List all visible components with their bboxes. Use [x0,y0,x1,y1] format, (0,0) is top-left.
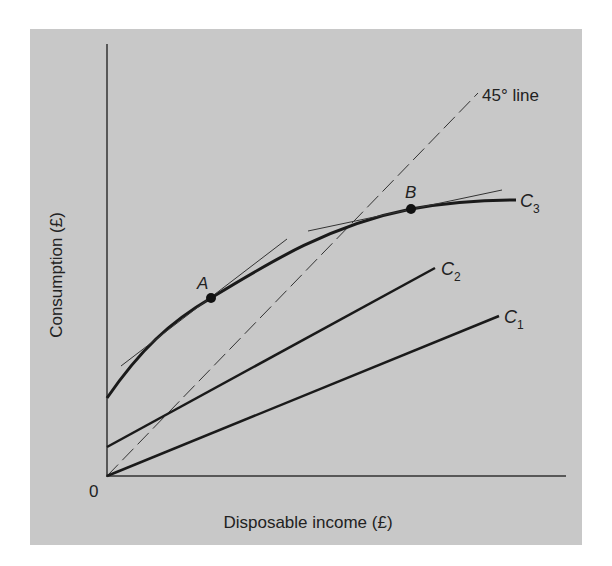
c1-label: C1 [504,307,524,332]
y-axis-label: Consumption (£) [47,212,66,338]
point-b-marker [406,204,416,214]
c2-line [107,268,435,447]
c1-label-base: C [504,307,518,327]
c3-label-base: C [520,191,534,211]
c3-label-sub: 3 [533,202,540,216]
c2-label-base: C [441,259,455,279]
origin-label: 0 [89,482,98,501]
x-axis-label: Disposable income (£) [223,513,392,532]
c2-label-sub: 2 [454,270,461,284]
tangent-at-a [121,239,287,366]
c3-curve [107,200,516,398]
consumption-function-chart: A B 45° line C3 C2 C1 0 Disposable incom… [0,0,612,566]
forty-five-degree-line [107,93,478,476]
c3-label: C3 [520,191,540,216]
point-b-label: B [405,183,416,202]
c2-label: C2 [441,259,461,284]
point-a-label: A [196,274,208,293]
c1-label-sub: 1 [517,318,524,332]
point-a-marker [206,293,216,303]
forty-five-line-label: 45° line [482,86,539,105]
